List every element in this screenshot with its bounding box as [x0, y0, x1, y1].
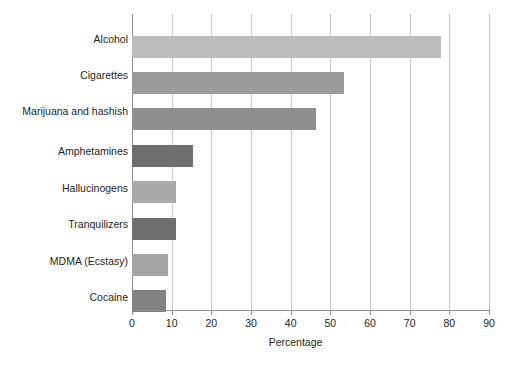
bar-cocaine	[132, 290, 166, 312]
tick-label-0: 0	[112, 317, 152, 330]
tick-label-70: 70	[390, 317, 430, 330]
plot-area	[132, 14, 489, 310]
bar-alcohol	[132, 36, 441, 58]
bar-row	[132, 218, 489, 240]
category-label-alcohol: Alcohol	[0, 33, 128, 45]
bar-hallucinogens	[132, 181, 176, 203]
category-label-mdma-ecstasy: MDMA (Ecstasy)	[0, 255, 128, 267]
bar-row	[132, 72, 489, 94]
category-label-cocaine: Cocaine	[0, 291, 128, 303]
tick-mark-10	[172, 310, 173, 315]
tick-mark-20	[211, 310, 212, 315]
tick-label-40: 40	[271, 317, 311, 330]
bar-marijuana-and-hashish	[132, 108, 316, 130]
category-label-tranquilizers: Tranquilizers	[0, 218, 128, 230]
bar-row	[132, 108, 489, 130]
tick-label-10: 10	[152, 317, 192, 330]
tick-mark-50	[330, 310, 331, 315]
bar-cigarettes	[132, 72, 344, 94]
tick-label-90: 90	[469, 317, 509, 330]
tick-mark-70	[410, 310, 411, 315]
bar-row	[132, 254, 489, 276]
tick-mark-30	[251, 310, 252, 315]
tick-label-60: 60	[350, 317, 390, 330]
x-axis-line	[132, 310, 490, 311]
x-axis-title-text: Percentage	[269, 336, 323, 348]
x-axis-title: Percentage	[0, 336, 525, 348]
bar-mdma-ecstasy	[132, 254, 168, 276]
tick-label-50: 50	[310, 317, 350, 330]
tick-label-20: 20	[191, 317, 231, 330]
tick-label-80: 80	[429, 317, 469, 330]
bar-chart: Alcohol Cigarettes Marijuana and hashish…	[0, 0, 525, 368]
category-label-amphetamines: Amphetamines	[0, 145, 128, 157]
category-label-cigarettes: Cigarettes	[0, 69, 128, 81]
bar-row	[132, 145, 489, 167]
bar-row	[132, 181, 489, 203]
tick-mark-80	[449, 310, 450, 315]
category-label-marijuana-and-hashish: Marijuana and hashish	[0, 105, 128, 117]
tick-mark-60	[370, 310, 371, 315]
category-axis-labels: Alcohol Cigarettes Marijuana and hashish…	[0, 0, 128, 368]
bar-amphetamines	[132, 145, 193, 167]
tick-mark-0	[132, 310, 133, 315]
bar-row	[132, 290, 489, 312]
tick-mark-90	[489, 310, 490, 315]
tick-mark-40	[291, 310, 292, 315]
tick-label-30: 30	[231, 317, 271, 330]
bar-row	[132, 36, 489, 58]
category-label-hallucinogens: Hallucinogens	[0, 182, 128, 194]
bar-tranquilizers	[132, 218, 176, 240]
gridline-90	[489, 14, 490, 310]
